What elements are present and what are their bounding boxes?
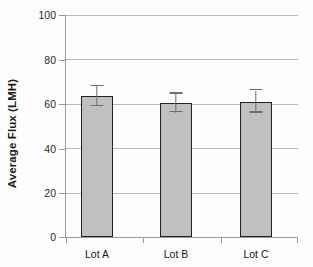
x-axis-tick-2	[221, 238, 222, 243]
error-bar-cap-upper-lot-b	[170, 92, 183, 93]
error-bar-cap-upper-lot-c	[250, 89, 263, 90]
bar-lot-c	[240, 102, 272, 237]
bar-group-lot-a	[81, 15, 113, 237]
y-axis-title: Average Flux (LMH)	[0, 0, 24, 267]
bar-group-lot-b	[160, 15, 192, 237]
x-axis-label-lot-a: Lot A	[57, 248, 137, 260]
x-axis-tick-end	[297, 238, 298, 243]
error-bar-cap-upper-lot-a	[91, 85, 104, 86]
error-bar-line-lot-a	[96, 86, 97, 106]
error-bar-cap-lower-lot-c	[250, 111, 263, 112]
error-bar-cap-lower-lot-a	[91, 105, 104, 106]
bar-chart: Average Flux (LMH) 100 80 60 40 20 0	[0, 0, 313, 267]
x-axis-label-lot-c: Lot C	[216, 248, 296, 260]
x-axis-tick-start	[66, 238, 67, 243]
error-bar-line-lot-b	[175, 94, 176, 113]
y-tick-label-100: 100	[16, 9, 56, 21]
y-tick-label-40: 40	[16, 143, 56, 155]
error-bar-cap-lower-lot-b	[170, 111, 183, 112]
y-tick-label-80: 80	[16, 54, 56, 66]
x-axis-tick-1	[143, 238, 144, 243]
y-tick-label-0: 0	[16, 231, 56, 243]
x-axis-label-lot-b: Lot B	[136, 248, 216, 260]
error-bar-line-lot-c	[255, 91, 256, 113]
x-axis: Lot A Lot B Lot C	[66, 238, 298, 267]
y-tick-label-60: 60	[16, 98, 56, 110]
plot-area	[66, 15, 298, 237]
bar-group-lot-c	[240, 15, 272, 237]
bar-lot-b	[160, 103, 192, 237]
y-tick-label-20: 20	[16, 187, 56, 199]
bar-lot-a	[81, 96, 113, 237]
